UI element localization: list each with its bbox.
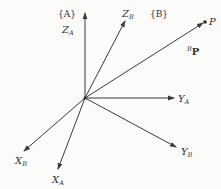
x-a-label: XA — [51, 174, 64, 187]
y-a-label: YA — [178, 93, 190, 106]
y-b-axis — [85, 98, 176, 147]
x-a-axis — [58, 98, 85, 169]
z-a-label: ZA — [61, 24, 74, 37]
z-b-axis — [85, 21, 125, 98]
y-b-label: YB — [181, 146, 193, 159]
x-b-label: XB — [14, 155, 27, 168]
point-p-label: P — [208, 16, 216, 27]
frame-a-label: {A} — [58, 9, 76, 19]
position-vector-bp — [85, 23, 203, 98]
diagram-canvas: {A} {B} ZA ZB YA YB XB XA P BP — [0, 0, 221, 189]
vector-bp-label: BP — [186, 45, 200, 57]
x-b-axis — [24, 98, 85, 151]
z-b-label: ZB — [121, 8, 134, 21]
point-p-dot — [203, 20, 207, 24]
coordinate-frames-diagram: {A} {B} ZA ZB YA YB XB XA P BP — [0, 0, 221, 189]
origin-point — [84, 97, 87, 100]
frame-b-label: {B} — [150, 9, 168, 19]
